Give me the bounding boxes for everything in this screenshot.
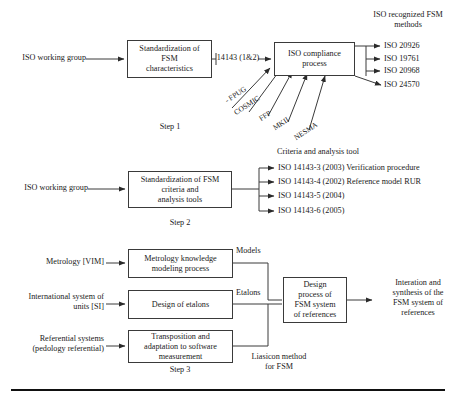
step3-edge-label-models: Models xyxy=(236,246,282,256)
step2-label: Step 2 xyxy=(155,218,205,227)
step3-edge-label-liasicon-method: Liasicon method for FSM xyxy=(236,352,322,372)
step2-output-14143-4: ISO 14143-4 (2002) Reference model RUR xyxy=(278,177,460,187)
step1-label: Step 1 xyxy=(145,122,195,131)
step1-output-iso-20968: ISO 20968 xyxy=(384,66,456,76)
step2-outputs-header: Criteria and analysis tool xyxy=(277,147,457,157)
step3-label: Step 3 xyxy=(155,365,205,374)
step2-output-14143-6: ISO 14143-6 (2005) xyxy=(278,206,460,216)
bottom-divider-rule xyxy=(11,389,445,391)
step3-box-metrology-knowledge-modeling[interactable]: Metrology knowledge modeling process xyxy=(128,249,233,278)
step1-source-label: ISO working group xyxy=(6,53,86,63)
step2-output-14143-3: ISO 14143-3 (2003) Verification procedur… xyxy=(278,163,460,173)
step2-box-standardization-criteria[interactable]: Standardization of FSM criteria and anal… xyxy=(128,171,232,208)
step3-box-design-process-fsm-system[interactable]: Design process of FSM system of referenc… xyxy=(283,277,347,323)
step1-output-iso-20926: ISO 20926 xyxy=(384,41,456,51)
step3-source-international-system-units: International system of units [SI] xyxy=(6,292,104,312)
step3-source-referential-systems: Referential systems (pedology referentia… xyxy=(4,334,104,354)
step1-input-mkii: MKII xyxy=(271,115,290,132)
step1-outputs-header: ISO recognized FSM methods xyxy=(358,10,458,30)
step2-source-label: ISO working group xyxy=(8,183,88,193)
step3-edge-label-etalons: Etalons xyxy=(236,288,282,298)
step1-output-iso-19761: ISO 19761 xyxy=(384,54,456,64)
step3-result-label: Interation and synthesis of the FSM syst… xyxy=(376,278,460,318)
step1-input-ffp: FFP xyxy=(257,109,273,123)
step3-box-transposition-adaptation[interactable]: Transposition and adaptation to software… xyxy=(128,330,233,363)
step1-box-standardization-characteristics[interactable]: Standardization of FSM characteristics xyxy=(127,40,212,78)
step2-output-14143-5: ISO 14143-5 (2004) xyxy=(278,191,460,201)
step1-input-nesma: NESMA xyxy=(292,120,319,142)
figure-canvas: ISO working group Standardization of FSM… xyxy=(0,0,461,402)
step3-source-metrology-vim: Metrology [VIM] xyxy=(18,257,104,267)
step3-box-design-of-etalons[interactable]: Design of etalons xyxy=(128,290,233,319)
step1-box-iso-compliance-process[interactable]: ISO compliance process xyxy=(274,42,355,76)
step1-output-iso-24570: ISO 24570 xyxy=(384,80,456,90)
step1-link-label: 14143 (1&2) xyxy=(216,53,260,63)
